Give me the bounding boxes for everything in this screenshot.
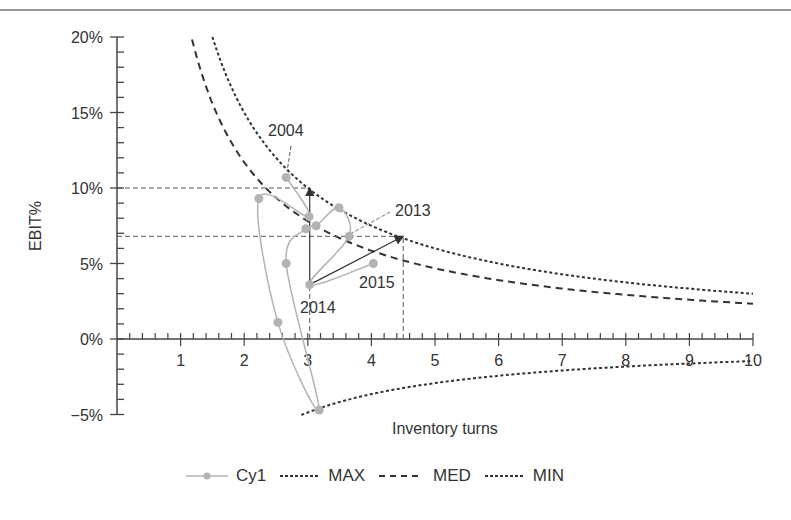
x-axis-title: Inventory turns bbox=[392, 420, 498, 437]
x-tick-label: 4 bbox=[367, 352, 376, 369]
curve-min bbox=[301, 361, 753, 415]
data-point bbox=[305, 212, 314, 221]
x-tick-label: 1 bbox=[176, 352, 185, 369]
y-tick-label: 20% bbox=[71, 29, 103, 46]
x-tick-label: 10 bbox=[744, 352, 762, 369]
legend-item-max: MAX bbox=[280, 466, 365, 486]
legend-marker-min-icon bbox=[485, 471, 525, 481]
legend-marker-med-icon bbox=[379, 471, 425, 481]
reference-curves bbox=[192, 37, 753, 415]
y-tick-label: 5% bbox=[80, 256, 103, 273]
chart-canvas: 20%15%10%5%0%−5%12345678910 2004 2013 20… bbox=[0, 0, 791, 520]
data-point bbox=[345, 232, 354, 241]
legend-label-max: MAX bbox=[328, 466, 365, 486]
data-point bbox=[334, 203, 343, 212]
data-point bbox=[282, 259, 291, 268]
y-tick-label: 15% bbox=[71, 105, 103, 122]
y-tick-label: −5% bbox=[71, 407, 103, 424]
x-tick-label: 6 bbox=[494, 352, 503, 369]
label-2014: 2014 bbox=[300, 299, 336, 316]
x-tick-label: 2 bbox=[240, 352, 249, 369]
legend-label-med: MED bbox=[433, 466, 471, 486]
data-point bbox=[282, 173, 291, 182]
legend-label-cy1: Cy1 bbox=[236, 466, 266, 486]
x-tick-label: 9 bbox=[685, 352, 694, 369]
series-cy1 bbox=[254, 173, 377, 415]
data-point bbox=[312, 221, 321, 230]
axes: 20%15%10%5%0%−5%12345678910 bbox=[71, 29, 762, 424]
data-point bbox=[369, 259, 378, 268]
x-tick-label: 7 bbox=[558, 352, 567, 369]
legend-item-min: MIN bbox=[485, 466, 564, 486]
label-2013: 2013 bbox=[395, 202, 431, 219]
y-tick-label: 0% bbox=[80, 331, 103, 348]
data-point bbox=[301, 224, 310, 233]
x-tick-label: 5 bbox=[431, 352, 440, 369]
y-tick-label: 10% bbox=[71, 180, 103, 197]
data-point bbox=[254, 194, 263, 203]
data-point bbox=[273, 318, 282, 327]
legend-item-med: MED bbox=[379, 466, 471, 486]
label-2004: 2004 bbox=[268, 122, 304, 139]
legend-item-cy1: Cy1 bbox=[186, 466, 266, 486]
y-axis-title: EBIT% bbox=[27, 201, 44, 251]
legend-label-min: MIN bbox=[533, 466, 564, 486]
legend-marker-max-icon bbox=[280, 471, 320, 481]
curve-med bbox=[192, 40, 753, 304]
data-point bbox=[305, 280, 314, 289]
legend-marker-cy1-icon bbox=[186, 471, 228, 481]
curve-max bbox=[212, 37, 753, 294]
data-point bbox=[315, 405, 324, 414]
legend: Cy1 MAX MED MIN bbox=[186, 466, 578, 486]
label-2015: 2015 bbox=[359, 274, 395, 291]
